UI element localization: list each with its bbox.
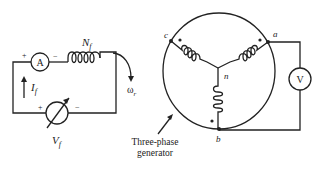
- phase-a-coil: [218, 42, 268, 68]
- speed-label: ωr: [127, 84, 137, 98]
- source-label: Vf: [52, 134, 63, 149]
- diagram-canvas: A + − Nf If + − Vf ωr c a b n V Three-ph…: [0, 0, 324, 170]
- ammeter-label: A: [36, 57, 44, 68]
- caption-line-1: Three-phase: [132, 137, 179, 147]
- terminal-c: [169, 39, 173, 43]
- caption-line-2: generator: [137, 148, 174, 158]
- ammeter-plus: +: [22, 51, 27, 60]
- polarity-dot-b: [210, 119, 213, 122]
- voltmeter-label: V: [296, 74, 304, 85]
- field-winding-coil: [68, 52, 100, 63]
- phase-b-coil: [214, 68, 223, 129]
- terminal-b-label: b: [216, 134, 221, 144]
- ammeter-minus: −: [53, 52, 58, 61]
- polarity-dot-c: [178, 38, 181, 41]
- caption-arrow-icon: [158, 117, 171, 134]
- terminal-a-label: a: [273, 29, 278, 39]
- phase-c-coil: [171, 41, 218, 68]
- source-minus: −: [75, 103, 80, 112]
- source-plus: +: [38, 103, 43, 112]
- voltmeter-wiring: [219, 42, 300, 130]
- polarity-dot-a: [258, 38, 261, 41]
- variable-source-symbol: [46, 102, 68, 124]
- neutral-label: n: [224, 71, 229, 81]
- field-winding-label: Nf: [81, 36, 93, 51]
- three-phase-generator: [158, 13, 311, 134]
- terminal-c-label: c: [164, 30, 168, 40]
- current-label: If: [30, 81, 39, 96]
